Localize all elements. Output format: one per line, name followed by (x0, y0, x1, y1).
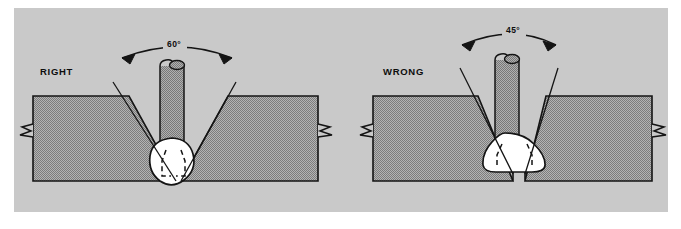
left-angle-label: 60° (167, 39, 181, 49)
right-angle-label: 45° (506, 25, 520, 35)
left-electrode-top-ellipse (170, 61, 185, 70)
welding-groove-figure: 60° RIGHT (0, 0, 681, 229)
left-weld-bead (150, 138, 194, 185)
left-verdict-label: RIGHT (40, 66, 73, 77)
figure-canvas: 60° RIGHT (0, 0, 681, 229)
right-electrode-top-ellipse (505, 55, 520, 64)
right-verdict-label: WRONG (383, 66, 424, 77)
